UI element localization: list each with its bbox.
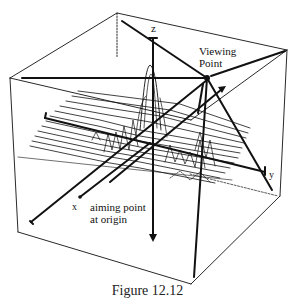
aiming-point-label-line1: aiming point: [90, 202, 146, 214]
y-axis-end-tick: [45, 113, 46, 118]
figure-caption: Figure 12.12: [0, 283, 295, 299]
y-axis-label: y: [269, 170, 274, 181]
surface-wireframe: [30, 65, 250, 183]
aiming-point-label: aiming point at origin: [90, 202, 146, 225]
viewing-point-label-line2: Point: [199, 58, 236, 70]
z-axis-arrow-icon: [149, 234, 157, 242]
x-axis-end-dot: [78, 195, 82, 199]
viewing-point-label-line1: Viewing: [199, 46, 236, 58]
x-axis-label: x: [72, 202, 77, 213]
z-axis-label: z: [151, 23, 156, 35]
viewing-point-label: Viewing Point: [199, 46, 236, 69]
aiming-point-label-line2: at origin: [90, 214, 146, 226]
viewing-point-dot: [204, 75, 210, 81]
